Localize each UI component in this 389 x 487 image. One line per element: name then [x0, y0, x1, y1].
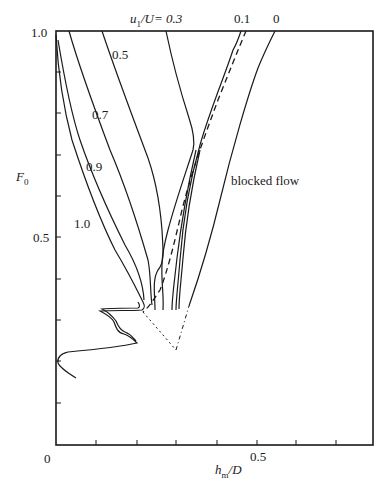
label-u09: 0.9: [86, 160, 102, 173]
series-param-label: u1/U= 0.3: [130, 12, 182, 29]
dotted-extension-left: [143, 312, 176, 350]
curve-u01-b: [179, 150, 200, 309]
label-u0: 0: [273, 12, 280, 25]
param-rest: /U= 0.3: [141, 11, 182, 26]
label-blocked-flow: blocked flow: [231, 174, 299, 187]
x-axis-label: hm/D: [215, 463, 242, 480]
dotted-extension-right: [176, 306, 189, 350]
curve-u0: [189, 31, 275, 306]
curve-u03: [162, 31, 194, 310]
x-tick-label-05: 0.5: [250, 450, 266, 463]
x-name-rest: /D: [229, 462, 242, 477]
x-name-sub: m: [222, 470, 229, 480]
plot-area: [0, 0, 389, 487]
curve-u05: [102, 31, 163, 310]
y-axis-label: F0: [16, 170, 28, 187]
y-tick-label-1: 1.0: [31, 26, 47, 39]
x-tick-label-0: 0: [44, 452, 51, 465]
axes-frame: [56, 31, 373, 445]
chart: u1/U= 0.3 0.1 0 0.5 0.7 0.9 1.0 blocked …: [0, 0, 389, 487]
label-u05: 0.5: [112, 48, 128, 61]
label-u10: 1.0: [74, 217, 90, 230]
label-u01: 0.1: [234, 12, 250, 25]
y-name-sub: 0: [24, 177, 29, 187]
y-name: F: [16, 169, 24, 184]
label-u07: 0.7: [92, 108, 108, 121]
y-tick-label-05: 0.5: [33, 231, 49, 244]
curve-u10-inner: [102, 302, 140, 341]
